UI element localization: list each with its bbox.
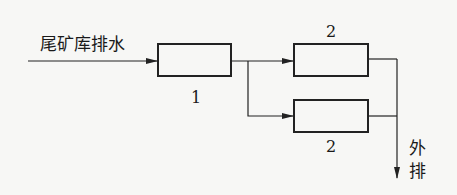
unit-1-label: 1 — [191, 88, 201, 107]
output-label-char-1: 外 — [409, 138, 426, 158]
unit-2a-label: 2 — [326, 22, 336, 41]
unit-1-box — [158, 44, 231, 76]
unit-2a-box — [294, 44, 368, 76]
input-label: 尾矿库排水 — [40, 34, 125, 54]
output-label-char-2: 排 — [409, 161, 426, 181]
arrow-to-unit-2b — [248, 61, 293, 116]
flow-diagram: 尾矿库排水 1 2 2 外 排 — [0, 0, 457, 195]
unit-2b-label: 2 — [326, 137, 336, 156]
unit-2b-box — [294, 100, 368, 132]
